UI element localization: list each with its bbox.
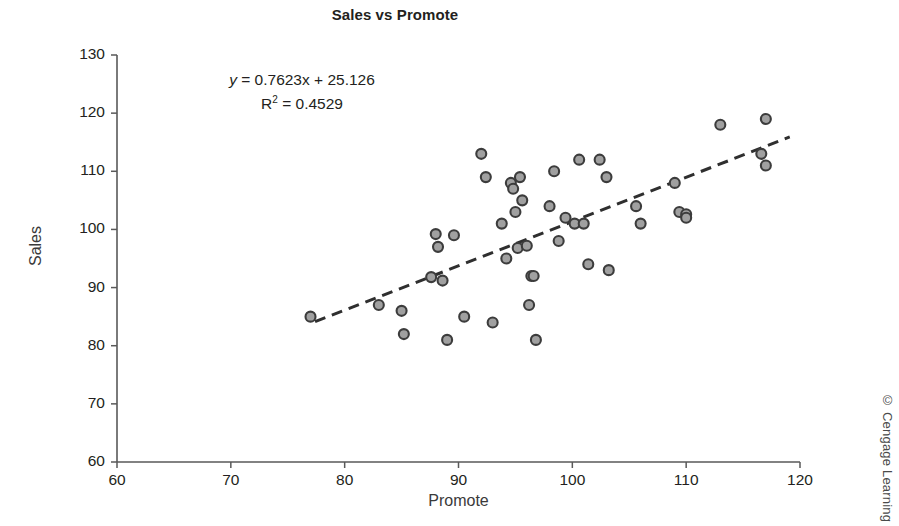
x-axis-tick-label: 90 bbox=[439, 471, 479, 489]
y-axis-tick-label: 120 bbox=[65, 103, 105, 121]
data-point bbox=[510, 207, 520, 217]
data-point bbox=[579, 219, 589, 229]
trendline-path bbox=[315, 137, 790, 322]
data-point bbox=[583, 259, 593, 269]
data-point bbox=[549, 166, 559, 176]
data-point bbox=[488, 317, 498, 327]
y-axis-tick-label: 90 bbox=[65, 278, 105, 296]
data-point bbox=[497, 219, 507, 229]
data-point bbox=[426, 272, 436, 282]
data-point bbox=[681, 213, 691, 223]
data-point bbox=[517, 195, 527, 205]
scatter-plot-svg bbox=[0, 0, 899, 526]
axes-group bbox=[117, 55, 800, 462]
x-axis-tick-label: 80 bbox=[325, 471, 365, 489]
data-point bbox=[756, 149, 766, 159]
x-axis-tick-label: 120 bbox=[780, 471, 820, 489]
copyright-notice: © Cengage Learning bbox=[880, 393, 895, 522]
data-point bbox=[561, 213, 571, 223]
data-point bbox=[459, 312, 469, 322]
data-point bbox=[761, 160, 771, 170]
data-point bbox=[431, 229, 441, 239]
data-point bbox=[595, 155, 605, 165]
data-point bbox=[636, 219, 646, 229]
data-point bbox=[524, 300, 534, 310]
x-axis-tick-label: 110 bbox=[666, 471, 706, 489]
y-axis-tick-label: 110 bbox=[65, 161, 105, 179]
x-axis-tick-label: 100 bbox=[552, 471, 592, 489]
x-axis-title: Promote bbox=[117, 492, 800, 510]
data-point bbox=[604, 265, 614, 275]
y-axis-tick-label: 130 bbox=[65, 45, 105, 63]
data-point bbox=[670, 178, 680, 188]
x-axis-tick-label: 60 bbox=[97, 471, 137, 489]
data-point bbox=[531, 335, 541, 345]
data-point bbox=[481, 172, 491, 182]
data-point bbox=[715, 120, 725, 130]
data-point bbox=[554, 236, 564, 246]
data-point bbox=[515, 172, 525, 182]
data-point bbox=[501, 254, 511, 264]
y-axis-tick-label: 70 bbox=[65, 394, 105, 412]
y-axis-title: Sales bbox=[27, 196, 45, 296]
data-point bbox=[761, 114, 771, 124]
trendline bbox=[315, 137, 790, 322]
data-point bbox=[508, 184, 518, 194]
data-point bbox=[442, 335, 452, 345]
data-point bbox=[438, 276, 448, 286]
data-point bbox=[601, 172, 611, 182]
data-point bbox=[574, 155, 584, 165]
y-axis-tick-label: 100 bbox=[65, 219, 105, 237]
y-axis-tick-label: 60 bbox=[65, 452, 105, 470]
figure-container: Sales vs Promote y = 0.7623x + 25.126 R2… bbox=[0, 0, 899, 526]
data-point bbox=[545, 201, 555, 211]
y-axis-ticks bbox=[111, 55, 117, 462]
data-point bbox=[306, 312, 316, 322]
data-point bbox=[529, 271, 539, 281]
data-point bbox=[522, 241, 532, 251]
y-axis-tick-label: 80 bbox=[65, 336, 105, 354]
data-point bbox=[631, 201, 641, 211]
data-point bbox=[374, 300, 384, 310]
data-point bbox=[433, 242, 443, 252]
data-point bbox=[397, 306, 407, 316]
data-point bbox=[476, 149, 486, 159]
x-axis-tick-label: 70 bbox=[211, 471, 251, 489]
data-point bbox=[449, 230, 459, 240]
data-point bbox=[399, 329, 409, 339]
x-axis-ticks bbox=[117, 462, 800, 468]
data-points-group bbox=[306, 114, 771, 345]
